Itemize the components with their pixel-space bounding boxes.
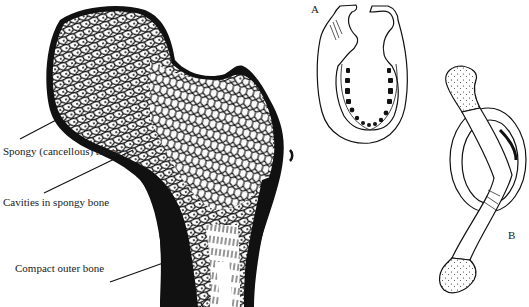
partial-arc bbox=[290, 150, 292, 161]
panel-letter-a: A bbox=[311, 3, 319, 15]
label-spongy-tissue: Spongy (cancellous) tissue bbox=[3, 145, 121, 157]
label-cavities: Cavities in spongy bone bbox=[3, 196, 109, 208]
clavicle-drawing bbox=[440, 66, 526, 293]
label-compact-bone: Compact outer bone bbox=[15, 262, 104, 274]
mandible-drawing bbox=[317, 5, 407, 143]
panel-letter-b: B bbox=[508, 229, 515, 241]
